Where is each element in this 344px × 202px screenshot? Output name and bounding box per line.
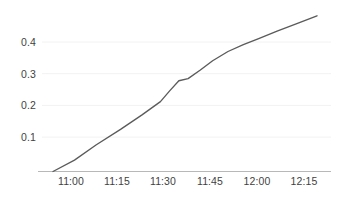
- line-chart: 0.4 0.3 0.2 0.1 11:00 11:15 11:30 11:45 …: [0, 0, 344, 202]
- y-tick-label-0.4: 0.4: [21, 36, 36, 48]
- y-tick-label-0.3: 0.3: [21, 68, 36, 80]
- y-tick-label-0.2: 0.2: [21, 99, 36, 111]
- y-tick-label-0.1: 0.1: [21, 131, 36, 143]
- series-line-value: [53, 16, 317, 172]
- chart-plot-area: [0, 0, 344, 202]
- gridlines: [42, 42, 331, 137]
- y-axis-tick-labels: 0.4 0.3 0.2 0.1: [0, 0, 40, 202]
